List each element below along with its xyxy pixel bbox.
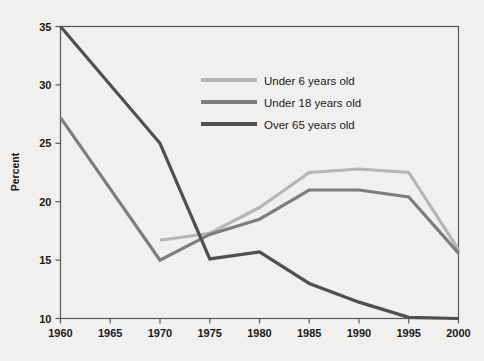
x-tick-label: 1970 <box>148 327 172 339</box>
legend-label: Over 65 years old <box>264 119 355 131</box>
x-tick-label: 1975 <box>198 327 222 339</box>
legend-label: Under 6 years old <box>264 75 355 87</box>
y-tick-label: 25 <box>39 137 51 149</box>
line-chart: 101520253035 196019651970197519801985199… <box>0 0 484 361</box>
y-tick-label: 15 <box>39 254 51 266</box>
x-tick-label: 1990 <box>347 327 371 339</box>
y-tick-label: 20 <box>39 196 51 208</box>
y-tick-label: 35 <box>39 21 51 33</box>
y-axis-title: Percent <box>9 152 21 191</box>
chart-container: 101520253035 196019651970197519801985199… <box>0 0 484 361</box>
plot-background <box>0 0 484 361</box>
x-tick-label: 1995 <box>397 327 421 339</box>
y-tick-label: 10 <box>39 313 51 325</box>
y-axis-title-text: Percent <box>9 152 21 191</box>
y-tick-label: 30 <box>39 79 51 91</box>
x-tick-label: 2000 <box>446 327 470 339</box>
x-tick-label: 1980 <box>247 327 271 339</box>
legend-label: Under 18 years old <box>264 97 361 109</box>
x-tick-label: 1960 <box>48 327 72 339</box>
x-tick-label: 1965 <box>98 327 122 339</box>
x-tick-label: 1985 <box>297 327 321 339</box>
